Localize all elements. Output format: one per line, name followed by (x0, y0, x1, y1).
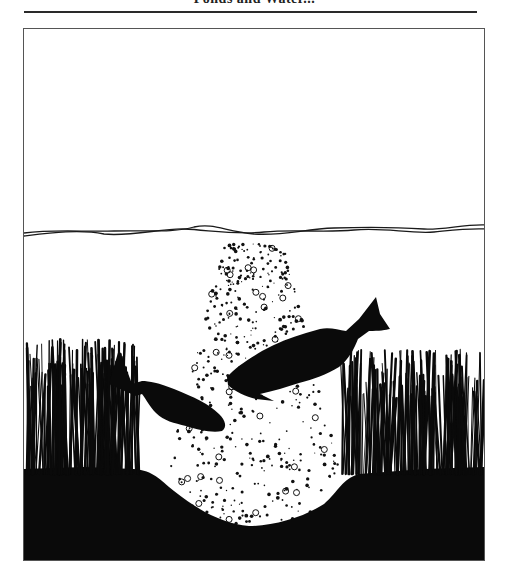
right-grass (341, 349, 485, 474)
pond-bottom (24, 467, 485, 561)
water-surface (24, 225, 485, 236)
illustration-frame (23, 28, 485, 561)
header-rule (24, 11, 477, 13)
pond-illustration (24, 29, 485, 561)
large-fish (227, 297, 390, 401)
running-header: Ponds and Water... (0, 0, 509, 7)
